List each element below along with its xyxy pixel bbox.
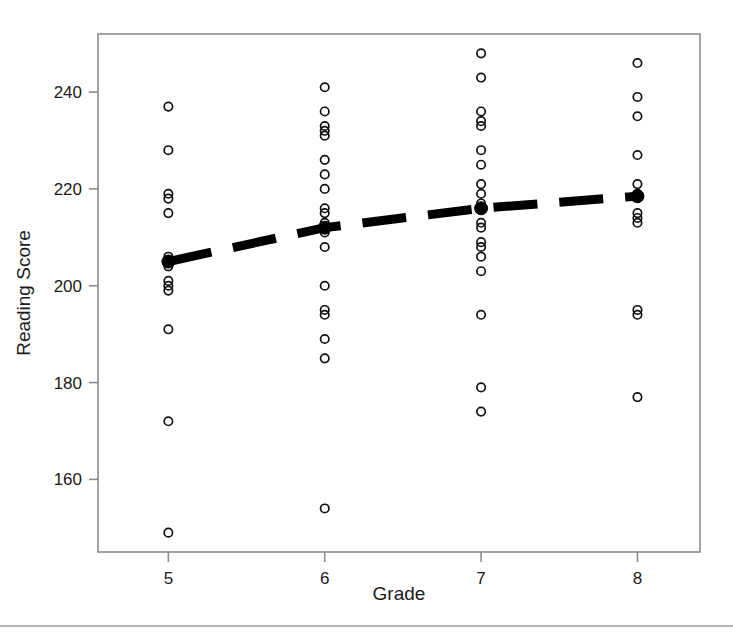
x-tick-label: 8 <box>633 569 642 588</box>
data-point <box>477 190 485 198</box>
x-tick-label: 7 <box>476 569 485 588</box>
data-point <box>321 504 329 512</box>
data-point <box>321 335 329 343</box>
data-point <box>321 156 329 164</box>
data-point <box>633 393 641 401</box>
y-tick-label: 240 <box>54 83 82 102</box>
data-point <box>633 180 641 188</box>
data-point <box>164 146 172 154</box>
data-point <box>321 243 329 251</box>
plot-frame <box>98 34 700 552</box>
data-point <box>477 161 485 169</box>
scatter-points-layer <box>164 49 641 537</box>
y-tick-label: 200 <box>54 277 82 296</box>
y-tick-label: 220 <box>54 180 82 199</box>
mean-trend-line-layer <box>168 196 637 261</box>
x-axis-title: Grade <box>373 583 426 604</box>
x-tick-label: 5 <box>164 569 173 588</box>
y-axis-ticks: 160180200220240 <box>54 83 98 489</box>
mean-marker <box>475 202 488 215</box>
data-point <box>477 252 485 260</box>
data-point <box>321 83 329 91</box>
data-point <box>477 267 485 275</box>
mean-marker <box>631 190 644 203</box>
data-point <box>164 209 172 217</box>
data-point <box>633 59 641 67</box>
data-point <box>633 93 641 101</box>
data-point <box>321 170 329 178</box>
x-tick-label: 6 <box>320 569 329 588</box>
data-point <box>477 146 485 154</box>
chart-canvas: 160180200220240 5678 Grade Reading Score <box>0 0 733 632</box>
data-point <box>477 107 485 115</box>
data-point <box>633 112 641 120</box>
mean-marker <box>162 255 175 268</box>
data-point <box>477 180 485 188</box>
data-point <box>477 73 485 81</box>
reading-score-scatter-figure: 160180200220240 5678 Grade Reading Score <box>0 0 733 632</box>
data-point <box>321 282 329 290</box>
data-point <box>321 185 329 193</box>
y-tick-label: 180 <box>54 374 82 393</box>
data-point <box>477 311 485 319</box>
mean-trend-line <box>168 196 637 261</box>
data-point <box>321 354 329 362</box>
data-point <box>477 407 485 415</box>
data-point <box>164 528 172 536</box>
data-point <box>321 107 329 115</box>
data-point <box>477 49 485 57</box>
y-tick-label: 160 <box>54 470 82 489</box>
data-point <box>477 383 485 391</box>
data-point <box>164 102 172 110</box>
data-point <box>164 417 172 425</box>
data-point <box>633 151 641 159</box>
mean-marker <box>318 221 331 234</box>
data-point <box>164 325 172 333</box>
y-axis-title: Reading Score <box>13 230 34 356</box>
